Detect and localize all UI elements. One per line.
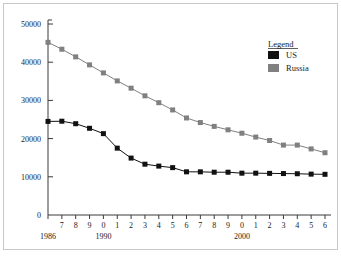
data-point-marker — [59, 119, 64, 124]
data-point-marker — [281, 143, 286, 148]
legend-swatch-russia — [268, 64, 279, 72]
data-point-marker — [46, 119, 51, 124]
x-axis-tick-label: 7 — [198, 221, 202, 230]
x-axis-tick-label: 3 — [143, 221, 147, 230]
x-axis-tick-label: 1 — [115, 221, 119, 230]
data-point-marker — [46, 40, 51, 45]
legend-label-us: US — [286, 50, 297, 60]
data-point-marker — [156, 100, 161, 105]
chart-plot-area: 01000020000300004000050000 7890123456789… — [0, 0, 341, 259]
data-point-marker — [281, 171, 286, 176]
chart-legend: LegendUSRussia — [268, 39, 309, 73]
x-axis-tick-label: 3 — [281, 221, 285, 230]
x-axis-tick-label: 2 — [268, 221, 272, 230]
x-axis-tick-label: 5 — [171, 221, 175, 230]
data-point-marker — [129, 86, 134, 91]
data-point-marker — [170, 165, 175, 170]
data-point-marker — [309, 146, 314, 151]
legend-swatch-us — [268, 51, 279, 59]
x-axis-year-label: 2000 — [234, 232, 250, 241]
data-point-marker — [198, 120, 203, 125]
data-point-marker — [212, 124, 217, 129]
data-point-marker — [142, 93, 147, 98]
x-axis-tick-label: 2 — [129, 221, 133, 230]
x-axis-year-label: 1990 — [95, 232, 111, 241]
data-point-marker — [295, 143, 300, 148]
y-axis-tick-label: 10000 — [21, 173, 41, 182]
data-point-marker — [87, 62, 92, 67]
data-point-marker — [253, 135, 258, 140]
data-point-marker — [198, 169, 203, 174]
y-axis-tick-label: 40000 — [21, 58, 41, 67]
data-point-marker — [184, 169, 189, 174]
series-line-russia — [48, 42, 325, 152]
legend-title: Legend — [268, 39, 294, 49]
y-axis-tick-label: 30000 — [21, 96, 41, 105]
data-point-marker — [129, 156, 134, 161]
data-point-marker — [267, 171, 272, 176]
chart-page: 01000020000300004000050000 7890123456789… — [0, 0, 341, 259]
data-point-marker — [323, 150, 328, 155]
data-point-marker — [226, 127, 231, 132]
data-point-marker — [142, 162, 147, 167]
data-point-marker — [59, 47, 64, 52]
data-series-group — [46, 40, 328, 177]
x-axis-tick-label: 6 — [323, 221, 327, 230]
x-axis-tick-label: 5 — [309, 221, 313, 230]
data-point-marker — [253, 171, 258, 176]
x-axis: 78901234567890123456198619902000 — [40, 215, 331, 241]
data-point-marker — [87, 126, 92, 131]
data-point-marker — [101, 131, 106, 136]
data-point-marker — [115, 78, 120, 83]
x-axis-tick-label: 8 — [74, 221, 78, 230]
x-axis-year-label: 1986 — [40, 232, 56, 241]
x-axis-tick-label: 9 — [226, 221, 230, 230]
x-axis-tick-label: 0 — [240, 221, 244, 230]
data-point-marker — [212, 170, 217, 175]
data-point-marker — [73, 54, 78, 59]
x-axis-tick-label: 4 — [295, 221, 299, 230]
x-axis-tick-label: 4 — [157, 221, 161, 230]
y-axis-tick-label: 0 — [37, 211, 41, 220]
data-point-marker — [101, 70, 106, 75]
data-point-marker — [239, 171, 244, 176]
x-axis-tick-label: 1 — [254, 221, 258, 230]
x-axis-tick-label: 0 — [101, 221, 105, 230]
data-point-marker — [239, 131, 244, 136]
data-point-marker — [156, 164, 161, 169]
y-axis-tick-label: 20000 — [21, 135, 41, 144]
line-chart-svg: 01000020000300004000050000 7890123456789… — [0, 0, 341, 259]
data-point-marker — [115, 146, 120, 151]
x-axis-tick-label: 7 — [60, 221, 64, 230]
data-point-marker — [226, 170, 231, 175]
data-point-marker — [184, 115, 189, 120]
x-axis-tick-label: 6 — [185, 221, 189, 230]
y-axis-tick-label: 50000 — [21, 20, 41, 29]
data-point-marker — [267, 138, 272, 143]
data-point-marker — [295, 171, 300, 176]
data-point-marker — [309, 172, 314, 177]
data-point-marker — [170, 107, 175, 112]
data-point-marker — [323, 172, 328, 177]
legend-label-russia: Russia — [286, 63, 309, 73]
x-axis-tick-label: 8 — [212, 221, 216, 230]
x-axis-tick-label: 9 — [88, 221, 92, 230]
data-point-marker — [73, 121, 78, 126]
